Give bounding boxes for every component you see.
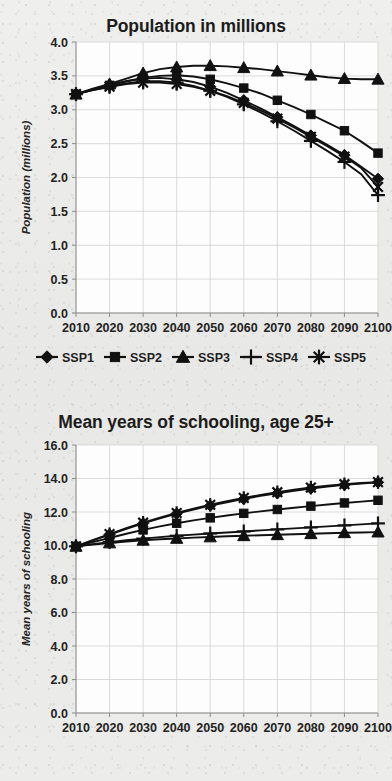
x-tick-label: 2090 [331,321,359,335]
x-tick-label: 2060 [230,721,258,735]
y-tick-label: 4.0 [51,36,68,50]
x-tick-label: 2040 [163,321,191,335]
x-tick-label: 2100 [364,321,392,335]
population-chart-panel: Population in millions 0.00.51.01.52.02.… [0,0,392,390]
legend-item-ssp2[interactable]: SSP2 [104,351,162,365]
legend-item-ssp4[interactable]: SSP4 [240,349,298,364]
x-tick-label: 2040 [163,721,191,735]
x-tick-label: 2060 [230,321,258,335]
legend-label: SSP1 [62,351,94,365]
y-tick-label: 6.0 [51,606,68,620]
y-axis-title: Population (millions) [20,120,32,234]
marker-square [374,496,382,504]
marker-square [340,127,348,135]
marker-square [240,509,248,517]
marker-square [240,84,248,92]
schooling-chart-canvas: 0.02.04.06.08.010.012.014.016.0201020202… [0,390,392,781]
x-tick-label: 2020 [96,721,124,735]
x-tick-label: 2010 [62,321,90,335]
marker-square [206,75,214,83]
marker-square [340,499,348,507]
x-tick-label: 2070 [263,321,291,335]
y-tick-label: 2.0 [51,673,68,687]
marker-diamond [41,351,53,363]
schooling-chart-svg: 0.02.04.06.08.010.012.014.016.0201020202… [0,390,392,781]
x-tick-label: 2090 [331,721,359,735]
x-tick-label: 2020 [96,321,124,335]
marker-square [307,110,315,118]
y-axis-title: Mean years of schooling [20,512,32,646]
x-tick-label: 2050 [196,721,224,735]
legend-item-ssp5[interactable]: SSP5 [308,350,366,365]
population-chart-canvas: 0.00.51.01.52.02.53.03.54.02010202020302… [0,0,392,390]
legend-label: SSP5 [334,351,366,365]
legend-label: SSP3 [198,351,230,365]
population-chart-svg: 0.00.51.01.52.02.53.03.54.02010202020302… [0,0,392,390]
y-tick-label: 0.0 [51,707,68,721]
y-tick-label: 0.0 [51,307,68,321]
y-tick-label: 1.0 [51,239,68,253]
y-tick-label: 4.0 [51,640,68,654]
x-tick-label: 2080 [297,321,325,335]
x-tick-label: 2050 [196,321,224,335]
marker-square [307,502,315,510]
x-tick-label: 2100 [364,721,392,735]
legend-label: SSP2 [130,351,162,365]
x-tick-label: 2080 [297,721,325,735]
schooling-chart-panel: Mean years of schooling, age 25+ 0.02.04… [0,390,392,781]
marker-square [273,96,281,104]
marker-square [374,149,382,157]
y-tick-label: 2.0 [51,171,68,185]
x-tick-label: 2070 [263,721,291,735]
legend-item-ssp3[interactable]: SSP3 [172,350,230,364]
marker-square [172,519,180,527]
x-tick-label: 2030 [129,721,157,735]
y-tick-label: 16.0 [44,439,68,453]
marker-square [110,352,119,361]
y-tick-label: 3.0 [51,103,68,117]
y-tick-label: 1.5 [51,205,68,219]
y-tick-label: 10.0 [44,539,68,553]
legend-item-ssp1[interactable]: SSP1 [36,351,94,365]
x-tick-label: 2030 [129,321,157,335]
marker-square [273,505,281,513]
y-tick-label: 8.0 [51,573,68,587]
marker-square [206,514,214,522]
y-tick-label: 14.0 [44,472,68,486]
y-tick-label: 2.5 [51,137,68,151]
y-tick-label: 0.5 [51,273,68,287]
y-tick-label: 12.0 [44,506,68,520]
legend-label: SSP4 [266,351,298,365]
x-tick-label: 2010 [62,721,90,735]
y-tick-label: 3.5 [51,69,68,83]
